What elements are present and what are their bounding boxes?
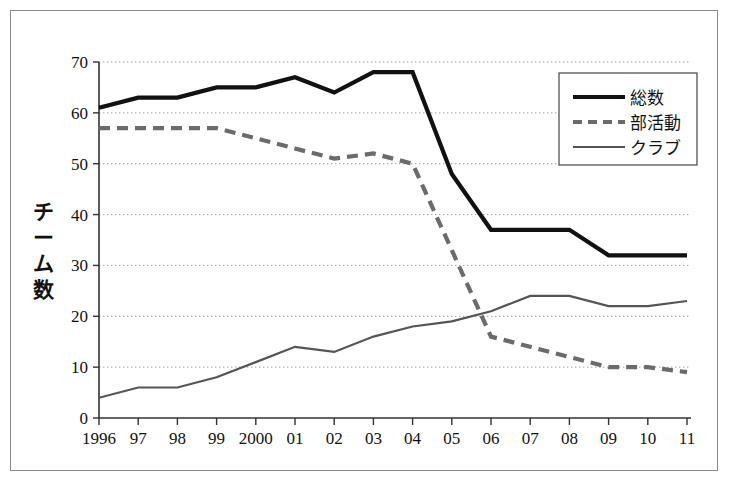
y-axis-title: チーム数 [33, 200, 55, 302]
x-tick-label-05: 05 [443, 429, 460, 448]
x-tick-label-01: 01 [287, 429, 304, 448]
y-tick-label-20: 20 [71, 307, 88, 326]
y-axis-tick-labels: 010203040506070 [71, 53, 88, 428]
y-tick-label-0: 0 [80, 409, 89, 428]
x-axis-tick-labels: 199697989920000102030405060708091011 [82, 429, 695, 448]
y-axis-title-char-3: 数 [33, 278, 55, 302]
chart-legend: 総数部活動クラブ [559, 73, 697, 165]
line-chart: 010203040506070 199697989920000102030405… [11, 11, 719, 472]
x-tick-label-1996: 1996 [82, 429, 116, 448]
y-tick-label-10: 10 [71, 358, 88, 377]
y-axis-title-char-0: チ [33, 200, 54, 224]
x-tick-label-08: 08 [561, 429, 578, 448]
y-axis-title-char-2: ム [33, 252, 54, 276]
x-tick-label-03: 03 [365, 429, 382, 448]
x-tick-label-07: 07 [522, 429, 540, 448]
series-line-2 [99, 296, 687, 398]
y-tick-label-30: 30 [71, 256, 88, 275]
x-tick-label-98: 98 [169, 429, 186, 448]
x-tick-label-99: 99 [208, 429, 225, 448]
legend-label-1: 部活動 [630, 113, 681, 133]
y-tick-label-40: 40 [71, 206, 88, 225]
x-axis-ticks [99, 418, 687, 425]
chart-figure: 010203040506070 199697989920000102030405… [10, 10, 718, 471]
y-tick-label-70: 70 [71, 53, 88, 72]
legend-label-0: 総数 [630, 88, 664, 108]
legend-label-2: クラブ [630, 138, 681, 158]
y-axis-ticks [93, 62, 99, 418]
x-tick-label-04: 04 [404, 429, 422, 448]
x-tick-label-09: 09 [600, 429, 617, 448]
x-tick-label-02: 02 [326, 429, 343, 448]
x-tick-label-06: 06 [483, 429, 500, 448]
y-tick-label-60: 60 [71, 104, 88, 123]
x-tick-label-97: 97 [130, 429, 148, 448]
y-tick-label-50: 50 [71, 155, 88, 174]
x-tick-label-10: 10 [639, 429, 656, 448]
x-tick-label-11: 11 [679, 429, 695, 448]
y-axis-title-char-1: ー [33, 226, 54, 250]
x-tick-label-2000: 2000 [239, 429, 273, 448]
